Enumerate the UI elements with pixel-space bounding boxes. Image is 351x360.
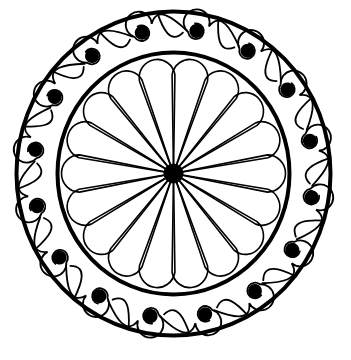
petal	[62, 155, 174, 192]
petal	[136, 170, 191, 290]
rosette-artwork	[0, 0, 351, 360]
scroll-ornament-icon	[295, 154, 340, 244]
scroll-ornament-icon	[46, 13, 134, 88]
petal	[174, 155, 286, 192]
scroll-ornament-icon	[104, 299, 194, 344]
petal	[156, 170, 211, 290]
petal	[156, 56, 211, 176]
scroll-ornament-icon	[7, 103, 52, 193]
center-hub-icon	[164, 164, 184, 184]
scroll-ornament-icon	[213, 259, 301, 334]
scroll-ornament-icon	[154, 3, 244, 48]
petal	[136, 56, 191, 176]
